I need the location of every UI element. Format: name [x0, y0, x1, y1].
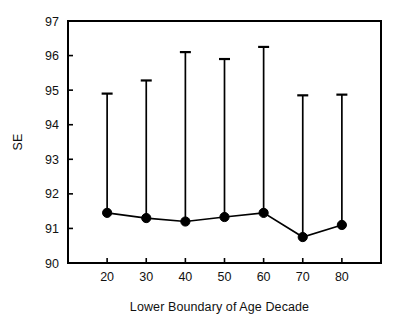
y-tick-label: 93 [45, 153, 59, 167]
y-tick-label: 95 [45, 84, 59, 98]
x-tick-label: 50 [218, 270, 232, 284]
y-tick-label: 90 [45, 257, 59, 271]
data-point [103, 208, 112, 217]
x-tick-label: 70 [296, 270, 310, 284]
x-axis-label: Lower Boundary of Age Decade [130, 300, 309, 314]
x-tick-label: 60 [257, 270, 271, 284]
se-by-age-decade-chart: 9091929394959697 20304050607080 Lower Bo… [0, 0, 413, 327]
x-tick-label: 40 [178, 270, 192, 284]
x-tick-label: 30 [139, 270, 153, 284]
chart-background [0, 0, 413, 327]
y-tick-label: 96 [45, 49, 59, 63]
y-tick-label: 94 [45, 118, 59, 132]
data-point [142, 213, 151, 222]
data-point [337, 220, 346, 229]
y-tick-label: 92 [45, 187, 59, 201]
y-tick-label: 91 [45, 222, 59, 236]
x-tick-label: 20 [100, 270, 114, 284]
chart-figure: 9091929394959697 20304050607080 Lower Bo… [0, 0, 413, 327]
data-point [220, 212, 229, 221]
x-tick-label: 80 [335, 270, 349, 284]
data-point [181, 217, 190, 226]
data-point [259, 208, 268, 217]
data-point [298, 232, 307, 241]
y-axis-label: SE [11, 134, 25, 151]
y-tick-label: 97 [45, 15, 59, 29]
